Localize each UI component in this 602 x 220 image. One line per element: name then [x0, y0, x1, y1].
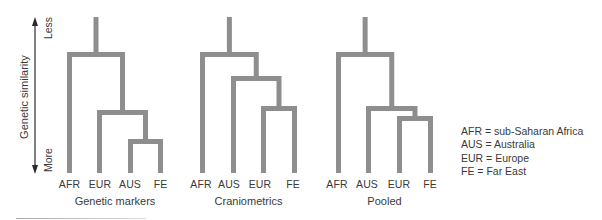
leaf-label: EUR	[249, 179, 271, 190]
axis-title: Genetic similarity	[19, 55, 30, 139]
leaf-label: AUS	[218, 179, 240, 190]
leaf-label: FE	[154, 179, 168, 190]
legend-item-fe: FE = Far East	[461, 165, 583, 178]
leaf-label: FE	[286, 179, 300, 190]
dendrogram-figure: Genetic similarity Less More AFR EUR AUS…	[0, 0, 602, 220]
axis-top-label: Less	[43, 17, 54, 39]
leaf-label: AFR	[190, 179, 211, 190]
dendrogram-caption: Genetic markers	[75, 196, 156, 207]
leaf-label: AUS	[119, 179, 141, 190]
dendrogram-caption: Craniometrics	[215, 196, 283, 207]
branch-clade	[131, 142, 161, 174]
bottom-divider	[16, 218, 146, 219]
legend-item-afr: AFR = sub-Saharan Africa	[461, 125, 583, 138]
dendrogram-tree	[203, 17, 295, 173]
arrow-up-icon	[32, 17, 38, 26]
axis-bottom-label: More	[43, 148, 54, 172]
dendrogram-caption: Pooled	[367, 196, 401, 207]
arrow-down-icon	[32, 165, 38, 174]
leaf-label: AFR	[59, 179, 80, 190]
leaf-label: EUR	[89, 179, 111, 190]
legend-item-aus: AUS = Australia	[461, 138, 583, 151]
branch-clade	[203, 55, 257, 174]
dendrogram-tree	[339, 17, 431, 173]
leaf-label: FE	[423, 179, 437, 190]
leaf-label: AFR	[326, 179, 347, 190]
branch-clade	[400, 119, 431, 174]
legend-item-eur: EUR = Europe	[461, 152, 583, 165]
dendrogram-tree	[70, 17, 161, 173]
branch-clade	[234, 79, 280, 174]
branch-clade	[264, 109, 295, 174]
similarity-axis-arrow	[32, 17, 38, 174]
branch-clade	[339, 55, 392, 174]
abbreviation-legend: AFR = sub-Saharan Africa AUS = Australia…	[461, 125, 583, 178]
leaf-label: EUR	[388, 179, 410, 190]
leaf-label: AUS	[356, 179, 378, 190]
